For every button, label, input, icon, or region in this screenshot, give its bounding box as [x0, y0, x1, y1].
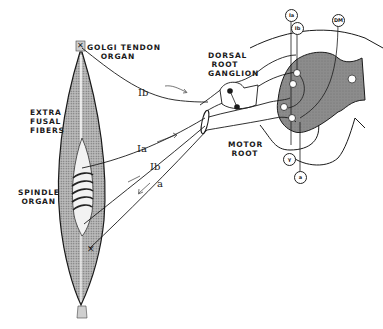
circled-label-dm: DM — [332, 14, 345, 27]
label-golgi-tendon-organ: GOLGI TENDON ORGAN — [87, 43, 161, 61]
circled-label-gamma: γ — [283, 153, 296, 166]
svg-text:✕: ✕ — [77, 41, 84, 50]
fiber-label-ia: Ia — [137, 143, 147, 154]
label-dorsal-root-ganglion: DORSAL ROOT GANGLION — [208, 51, 259, 78]
label-extra-fusal-fibers: EXTRA FUSAL FIBERS — [30, 108, 65, 135]
svg-text:✕: ✕ — [87, 244, 95, 254]
circled-label-ia: Ia — [285, 9, 298, 22]
label-motor-root: MOTOR ROOT — [228, 140, 263, 158]
bottom-tendon — [77, 306, 87, 318]
nerve-junction — [200, 110, 211, 135]
label-spindle-organ: SPINDLE ORGAN — [18, 188, 60, 206]
fiber-label-a: a — [157, 178, 163, 189]
fiber-label-ib-lower: Ib — [150, 161, 160, 172]
fiber-label-ib-top: Ib — [138, 87, 148, 98]
circled-label-alpha: a — [294, 171, 307, 184]
diagram-canvas: ✕ ✕ — [0, 0, 383, 329]
circled-label-ib: Ib — [291, 22, 304, 35]
